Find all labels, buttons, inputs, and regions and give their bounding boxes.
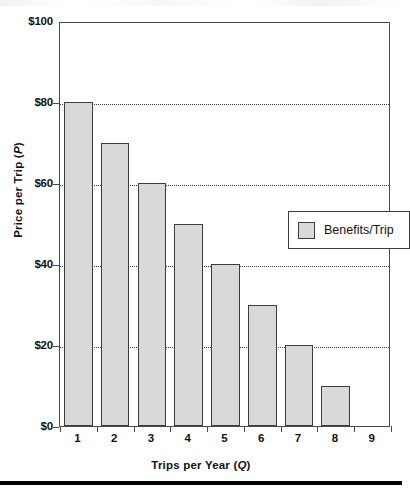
bar-slot-1 (60, 23, 97, 426)
scan-artifact-band (0, 0, 402, 6)
x-tick-label-6: 6 (258, 433, 264, 445)
x-tick-label-8: 8 (332, 433, 338, 445)
x-tick-label-4: 4 (185, 433, 191, 445)
x-axis-label-variable: Q (237, 459, 246, 471)
bar-4[interactable] (174, 224, 203, 427)
x-tick-mark-3 (170, 426, 171, 432)
y-axis-label-text: Price per Trip (P) (12, 142, 24, 238)
x-tick-label-3: 3 (148, 433, 154, 445)
x-tick-mark-8 (354, 426, 355, 432)
x-tick-mark-2 (134, 426, 135, 432)
y-axis-label-suffix: ) (12, 142, 24, 146)
bar-slot-6 (244, 23, 281, 426)
bar-8[interactable] (321, 386, 350, 427)
y-tick-mark-0 (53, 427, 59, 428)
y-axis-label-prefix: Price per Trip ( (12, 154, 24, 238)
x-tick-label-5: 5 (221, 433, 227, 445)
y-tick-label-100: $100 (28, 16, 53, 28)
bar-slot-3 (134, 23, 171, 426)
bar-slot-4 (170, 23, 207, 426)
bar-6[interactable] (248, 305, 277, 427)
x-axis-label-prefix: Trips per Year ( (151, 459, 237, 471)
y-tick-label-60: $60 (34, 178, 53, 190)
x-tick-mark-9 (391, 426, 392, 432)
bar-5[interactable] (211, 264, 240, 426)
y-axis-label: Price per Trip (P) (8, 80, 28, 300)
x-tick-mark-4 (207, 426, 208, 432)
x-axis-label: Trips per Year (Q) (0, 459, 402, 471)
chart-legend: Benefits/Trip (288, 211, 410, 249)
y-tick-label-0: $0 (41, 421, 53, 433)
x-tick-mark-6 (281, 426, 282, 432)
x-tick-mark-0 (60, 426, 61, 432)
x-axis-label-suffix: ) (247, 459, 251, 471)
y-axis-label-variable: P (12, 146, 24, 154)
bar-7[interactable] (285, 345, 314, 426)
bar-2[interactable] (101, 143, 130, 427)
x-tick-mark-7 (317, 426, 318, 432)
y-tick-label-40: $40 (34, 259, 53, 271)
bar-1[interactable] (64, 102, 93, 426)
bar-slot-5 (207, 23, 244, 426)
bottom-rule (0, 481, 402, 485)
y-tick-label-80: $80 (34, 97, 53, 109)
x-tick-mark-5 (244, 426, 245, 432)
x-tick-label-1: 1 (74, 433, 80, 445)
legend-label-benefits-trip: Benefits/Trip (324, 223, 394, 237)
y-tick-label-20: $20 (34, 340, 53, 352)
legend-swatch-benefits-trip (298, 222, 315, 239)
x-tick-label-7: 7 (295, 433, 301, 445)
x-tick-label-9: 9 (368, 433, 374, 445)
bar-slot-2 (97, 23, 134, 426)
bar-3[interactable] (138, 183, 167, 426)
x-tick-label-2: 2 (111, 433, 117, 445)
x-tick-mark-1 (97, 426, 98, 432)
